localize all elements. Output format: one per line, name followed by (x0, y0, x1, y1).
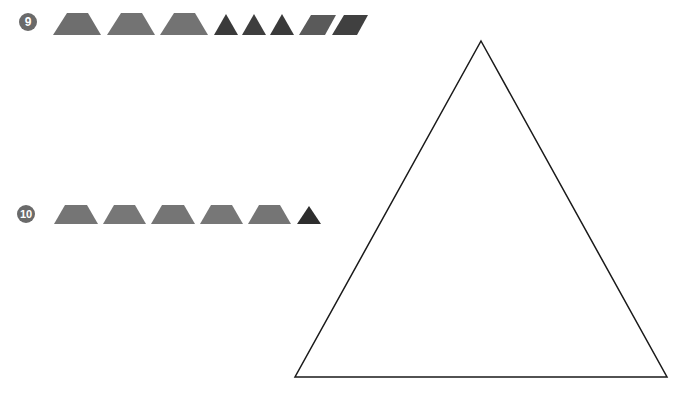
pattern-block-pieces (53, 13, 368, 35)
parallelogram-piece-icon (299, 15, 336, 35)
problem-9: 9 (19, 13, 368, 35)
pattern-block-pieces (54, 205, 321, 224)
trapezoid-piece-icon (200, 205, 243, 224)
trapezoid-piece-icon (160, 13, 208, 35)
worksheet-canvas: 9 10 (0, 0, 684, 395)
trapezoid-piece-icon (248, 205, 291, 224)
trapezoid-piece-icon (103, 205, 146, 224)
large-outline-triangle (295, 41, 667, 377)
triangle-piece-icon (270, 14, 294, 35)
problem-number-label: 9 (25, 15, 32, 29)
triangle-piece-icon (214, 14, 238, 35)
triangle-piece-icon (297, 206, 321, 224)
problem-number-badge: 9 (19, 13, 37, 31)
problem-number-label: 10 (20, 208, 32, 220)
problem-number-badge: 10 (17, 205, 35, 223)
trapezoid-piece-icon (53, 13, 101, 35)
parallelogram-piece-icon (332, 15, 368, 35)
trapezoid-piece-icon (107, 13, 155, 35)
trapezoid-piece-icon (54, 205, 98, 224)
triangle-piece-icon (242, 14, 266, 35)
problem-10: 10 (17, 205, 321, 224)
trapezoid-piece-icon (151, 205, 195, 224)
